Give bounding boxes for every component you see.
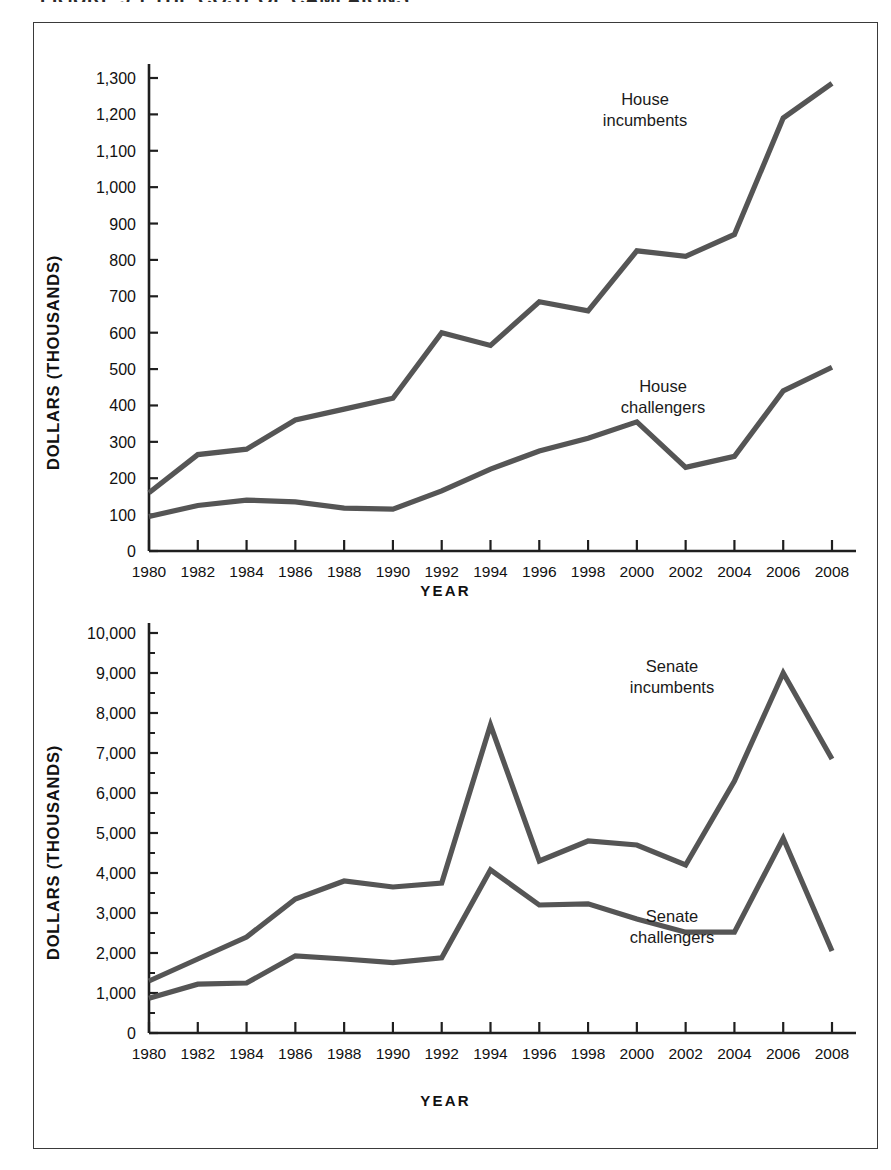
y-tick-label: 500 bbox=[109, 361, 136, 378]
x-tick-label: 2000 bbox=[620, 1045, 655, 1062]
y-tick-label: 700 bbox=[109, 288, 136, 305]
y-tick-label: 100 bbox=[109, 507, 136, 524]
x-tick-label: 1988 bbox=[327, 563, 361, 580]
annotation-senate-challengers-line1: Senate bbox=[646, 907, 698, 925]
y-tick-label: 9,000 bbox=[96, 665, 136, 682]
annotation-house-incumbents-line2: incumbents bbox=[603, 111, 687, 129]
x-tick-label: 2008 bbox=[815, 1045, 849, 1062]
x-tick-label: 1996 bbox=[522, 563, 556, 580]
x-tick-label: 1992 bbox=[424, 1045, 458, 1062]
house-chart-svg: 01002003004005006007008009001,0001,1001,… bbox=[0, 0, 891, 600]
x-tick-label: 2002 bbox=[668, 563, 702, 580]
y-tick-label: 900 bbox=[109, 216, 136, 233]
y-tick-label: 7,000 bbox=[96, 745, 136, 762]
x-tick-label: 1984 bbox=[229, 563, 264, 580]
annotation-house-challengers-line1: House bbox=[639, 377, 687, 395]
x-tick-label: 2008 bbox=[815, 563, 849, 580]
x-tick-label: 2004 bbox=[717, 563, 752, 580]
x-tick-label: 2002 bbox=[668, 1045, 702, 1062]
x-tick-label: 2000 bbox=[620, 563, 655, 580]
y-tick-label: 800 bbox=[109, 252, 136, 269]
y-tick-label: 5,000 bbox=[96, 825, 136, 842]
x-tick-label: 2006 bbox=[766, 1045, 800, 1062]
annotation-house-challengers: Housechallengers bbox=[621, 377, 705, 416]
y-tick-label: 8,000 bbox=[96, 705, 136, 722]
x-tick-label: 2004 bbox=[717, 1045, 752, 1062]
x-tick-label: 1982 bbox=[181, 1045, 215, 1062]
senate-x-axis-label: YEAR bbox=[0, 1092, 891, 1109]
y-tick-label: 3,000 bbox=[96, 905, 136, 922]
series-line-house-incumbents bbox=[149, 83, 832, 492]
x-tick-label: 1998 bbox=[571, 1045, 605, 1062]
annotation-senate-incumbents-line2: incumbents bbox=[630, 678, 714, 696]
x-tick-label: 1990 bbox=[376, 563, 411, 580]
annotation-house-incumbents: Houseincumbents bbox=[603, 90, 687, 129]
x-tick-label: 1982 bbox=[181, 563, 215, 580]
x-tick-label: 1986 bbox=[278, 563, 312, 580]
y-tick-label: 4,000 bbox=[96, 865, 136, 882]
house-y-axis-label: DOLLARS (THOUSANDS) bbox=[44, 255, 63, 470]
y-tick-label: 2,000 bbox=[96, 945, 136, 962]
x-tick-label: 1980 bbox=[132, 563, 167, 580]
y-tick-label: 0 bbox=[127, 1025, 136, 1042]
y-tick-label: 200 bbox=[109, 470, 136, 487]
annotation-house-challengers-line2: challengers bbox=[621, 398, 705, 416]
senate-y-axis-label: DOLLARS (THOUSANDS) bbox=[44, 745, 63, 960]
house-chart: 01002003004005006007008009001,0001,1001,… bbox=[0, 0, 891, 600]
y-tick-label: 1,100 bbox=[96, 143, 136, 160]
x-tick-label: 1996 bbox=[522, 1045, 556, 1062]
senate-chart: 01,0002,0003,0004,0005,0006,0007,0008,00… bbox=[0, 600, 891, 1120]
y-tick-label: 300 bbox=[109, 434, 136, 451]
y-tick-label: 600 bbox=[109, 325, 136, 342]
y-tick-label: 6,000 bbox=[96, 785, 136, 802]
annotation-house-incumbents-line1: House bbox=[621, 90, 669, 108]
y-tick-label: 1,000 bbox=[96, 179, 136, 196]
x-tick-label: 1988 bbox=[327, 1045, 361, 1062]
annotation-senate-incumbents-line1: Senate bbox=[646, 657, 698, 675]
y-tick-label: 1,000 bbox=[96, 985, 136, 1002]
x-tick-label: 1998 bbox=[571, 563, 605, 580]
annotation-senate-challengers-line2: challengers bbox=[630, 928, 714, 946]
x-tick-label: 1992 bbox=[424, 563, 458, 580]
y-tick-label: 0 bbox=[127, 543, 136, 560]
x-tick-label: 1990 bbox=[376, 1045, 411, 1062]
series-line-senate-challengers bbox=[149, 838, 832, 998]
y-tick-label: 1,300 bbox=[96, 70, 136, 87]
series-line-house-challengers bbox=[149, 367, 832, 516]
x-tick-label: 1986 bbox=[278, 1045, 312, 1062]
figure-root: FIGURE 9.1 THE COST OF CAMPAIGNS 0100200… bbox=[0, 0, 891, 1170]
x-tick-label: 1980 bbox=[132, 1045, 167, 1062]
x-tick-label: 1994 bbox=[473, 1045, 508, 1062]
x-tick-label: 1984 bbox=[229, 1045, 264, 1062]
annotation-senate-incumbents: Senateincumbents bbox=[630, 657, 714, 696]
senate-chart-svg: 01,0002,0003,0004,0005,0006,0007,0008,00… bbox=[0, 600, 891, 1120]
x-tick-label: 2006 bbox=[766, 563, 800, 580]
y-tick-label: 400 bbox=[109, 397, 136, 414]
x-tick-label: 1994 bbox=[473, 563, 508, 580]
y-tick-label: 10,000 bbox=[87, 625, 136, 642]
y-tick-label: 1,200 bbox=[96, 106, 136, 123]
house-x-axis-label: YEAR bbox=[0, 582, 891, 599]
